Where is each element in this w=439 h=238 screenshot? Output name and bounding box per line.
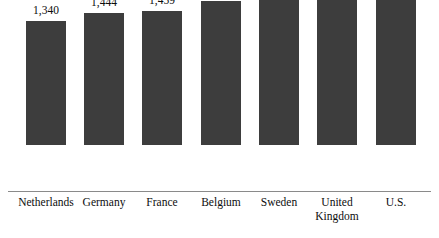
- bar-chart: 1,340 1,444 1,459 1,559 1,581 1,707: [0, 0, 439, 238]
- x-tick-label-line: Kingdom: [303, 210, 371, 224]
- bar-france[interactable]: [142, 11, 182, 145]
- bar-netherlands[interactable]: [26, 21, 66, 145]
- bar-group-us[interactable]: 1,815: [376, 0, 416, 145]
- bar-group-belgium[interactable]: 1,559: [201, 1, 241, 145]
- bar-germany[interactable]: [84, 13, 124, 145]
- x-axis-line: [8, 191, 431, 192]
- plot-area: 1,340 1,444 1,459 1,559 1,581 1,707: [0, 0, 439, 192]
- x-tick-label-united-kingdom: United Kingdom: [303, 196, 371, 223]
- bar-us[interactable]: [376, 0, 416, 145]
- bar-sweden[interactable]: [259, 0, 299, 145]
- bar-group-united-kingdom[interactable]: 1,707: [317, 0, 357, 145]
- x-tick-label-line: United: [303, 196, 371, 210]
- bar-value-label: 1,459: [128, 0, 196, 7]
- x-tick-label-line: U.S.: [362, 196, 430, 210]
- x-tick-label-us: U.S.: [362, 196, 430, 210]
- bar-belgium[interactable]: [201, 1, 241, 145]
- x-tick-label-france: France: [128, 196, 196, 210]
- bar-group-france[interactable]: 1,459: [142, 11, 182, 145]
- bar-group-germany[interactable]: 1,444: [84, 13, 124, 145]
- bar-group-sweden[interactable]: 1,581: [259, 0, 299, 145]
- bar-united-kingdom[interactable]: [317, 0, 357, 145]
- bar-group-netherlands[interactable]: 1,340: [26, 21, 66, 145]
- x-tick-label-line: France: [128, 196, 196, 210]
